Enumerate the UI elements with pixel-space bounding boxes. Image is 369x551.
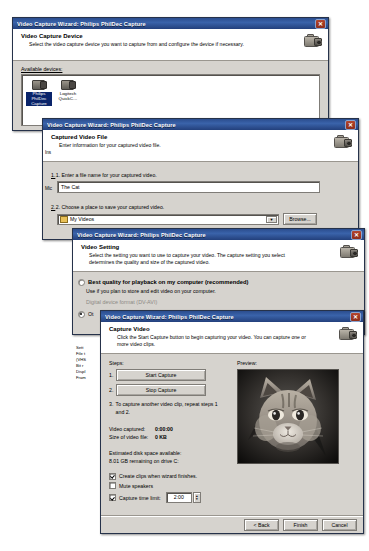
step1-number: 1. bbox=[51, 172, 55, 178]
dialog1-header: Video Capture Device Select the video ca… bbox=[13, 29, 328, 61]
save-location-value: My Videos bbox=[70, 216, 94, 222]
browse-button[interactable]: Browse... bbox=[283, 213, 317, 225]
close-icon[interactable]: ✕ bbox=[315, 19, 326, 29]
back-button[interactable]: < Back bbox=[244, 519, 279, 531]
dialog4-footer: < Back Finish Cancel bbox=[101, 515, 363, 533]
dialog-captured-video-file[interactable]: Video Capture Wizard: Philips PhilDec Ca… bbox=[42, 118, 359, 240]
dialog4-heading: Capture Video bbox=[109, 326, 312, 332]
radio-icon[interactable] bbox=[78, 311, 85, 318]
device-item-logitech[interactable]: Logitech QuickC… bbox=[55, 78, 81, 122]
camera-icon bbox=[304, 33, 322, 47]
device-label-line2: QuickC… bbox=[59, 96, 78, 101]
camera-icon bbox=[339, 326, 357, 340]
dialog2-header: Captured Video File Enter information fo… bbox=[43, 130, 358, 162]
step3-number: 3. bbox=[109, 401, 116, 407]
device-label-line1: Philips PhilDec bbox=[31, 91, 46, 101]
folder-icon bbox=[60, 216, 68, 223]
dialog2-subheading: Enter information for your captured vide… bbox=[51, 142, 161, 149]
dialog3-title: Video Capture Wizard: Philips PhilDec Ca… bbox=[77, 232, 351, 238]
checkbox-create-clips[interactable]: Create clips when wizard finishes. bbox=[109, 473, 227, 480]
camcorder-icon bbox=[32, 78, 47, 91]
finish-button[interactable]: Finish bbox=[283, 519, 318, 531]
camera-icon bbox=[340, 244, 358, 258]
radio-icon[interactable] bbox=[78, 279, 85, 286]
preview-label: Preview: bbox=[237, 360, 341, 366]
dialog3-heading: Video Setting bbox=[81, 244, 304, 250]
webcam-icon bbox=[61, 78, 76, 91]
step2-text: 2. Choose a place to save your captured … bbox=[56, 204, 164, 210]
checkbox-create-clips-label: Create clips when wizard finishes. bbox=[119, 473, 197, 479]
stop-capture-button[interactable]: Stop Capture bbox=[116, 384, 206, 396]
video-captured-label: Video captured: bbox=[109, 426, 155, 432]
dialog1-heading: Video Capture Device bbox=[21, 33, 244, 39]
dialog2-sliver-1: Ins bbox=[45, 150, 51, 155]
disk-space-label: Estimated disk space available: bbox=[109, 450, 227, 456]
video-preview bbox=[237, 369, 339, 464]
step2-label: 2. 2. Choose a place to save your captur… bbox=[51, 204, 350, 210]
time-limit-input[interactable]: 2:00 bbox=[166, 492, 192, 503]
dv-format-label: Digital device format (DV-AVI) bbox=[86, 299, 356, 305]
checkbox-mute-label: Mute speakers bbox=[119, 483, 153, 489]
video-captured-value: 0:00:00 bbox=[155, 426, 173, 432]
video-size-row: Size of video file: 0 KB bbox=[109, 434, 227, 440]
steps-label: Steps: bbox=[109, 360, 227, 366]
checkbox-icon[interactable] bbox=[109, 494, 116, 501]
screen: Video Capture Wizard: Philips PhilDec Ca… bbox=[0, 0, 369, 551]
step3-row: 3. To capture another video clip, repeat… bbox=[109, 401, 227, 417]
device-item-philips[interactable]: Philips PhilDec Capture bbox=[26, 78, 52, 122]
checkbox-icon[interactable] bbox=[109, 482, 116, 489]
radio-other-settings-label: Ot bbox=[88, 311, 93, 317]
dialog-video-capture-device[interactable]: Video Capture Wizard: Philips PhilDec Ca… bbox=[12, 17, 329, 131]
time-limit-stepper[interactable]: ▲ ▼ bbox=[193, 492, 201, 503]
step2-number: 2. bbox=[51, 204, 55, 210]
dialog2-heading: Captured Video File bbox=[51, 134, 161, 140]
device-label-line2: Capture bbox=[31, 101, 47, 106]
close-icon[interactable]: ✕ bbox=[345, 120, 356, 130]
camera-icon bbox=[334, 134, 352, 148]
dialog1-title: Video Capture Wizard: Philips PhilDec Ca… bbox=[17, 21, 315, 27]
dialog4-body: Steps: 1. Start Capture 2. Stop Capture … bbox=[101, 354, 363, 503]
video-size-value: 0 KB bbox=[155, 434, 167, 440]
side-label-5: Fram bbox=[76, 375, 86, 381]
dialog4-title-bar[interactable]: Video Capture Wizard: Philips PhilDec Ca… bbox=[101, 311, 363, 322]
dialog2-body: 1. 1. Enter a file name for your capture… bbox=[43, 162, 358, 230]
checkbox-time-limit-label: Capture time limit: bbox=[119, 495, 161, 501]
chevron-down-icon[interactable]: ▼ bbox=[266, 216, 277, 223]
step2-row: 2. Stop Capture bbox=[109, 384, 227, 396]
dialog3-title-bar[interactable]: Video Capture Wizard: Philips PhilDec Ca… bbox=[73, 229, 364, 240]
file-name-input[interactable]: The Cat bbox=[57, 181, 320, 193]
radio-best-quality[interactable]: Best quality for playback on my computer… bbox=[78, 278, 356, 286]
step1-label: 1. 1. Enter a file name for your capture… bbox=[51, 172, 350, 178]
close-icon[interactable]: ✕ bbox=[350, 312, 361, 322]
dialog4-subheading: Click the Start Capture button to begin … bbox=[109, 334, 312, 349]
radio-best-quality-label: Best quality for playback on my computer… bbox=[88, 279, 248, 285]
dialog1-title-bar[interactable]: Video Capture Wizard: Philips PhilDec Ca… bbox=[13, 18, 328, 29]
stepper-down-icon[interactable]: ▼ bbox=[195, 498, 198, 501]
dialog3-side-labels: Sett File t (VHS Bit r Displ Fram bbox=[76, 345, 86, 381]
capture-controls-column: Steps: 1. Start Capture 2. Stop Capture … bbox=[109, 360, 227, 503]
dialog2-title-bar[interactable]: Video Capture Wizard: Philips PhilDec Ca… bbox=[43, 119, 358, 130]
step1-number: 1. bbox=[109, 372, 116, 378]
checkbox-mute-speakers[interactable]: Mute speakers bbox=[109, 482, 227, 489]
cat-preview-image bbox=[238, 370, 338, 463]
checkbox-capture-time-limit[interactable]: Capture time limit: 2:00 ▲ ▼ bbox=[109, 492, 227, 503]
step1-row: 1. Start Capture bbox=[109, 369, 227, 381]
save-location-select[interactable]: My Videos ▼ bbox=[57, 214, 279, 225]
dialog4-title: Video Capture Wizard: Philips PhilDec Ca… bbox=[105, 314, 350, 320]
step3-text: To capture another video clip, repeat st… bbox=[116, 401, 227, 417]
dialog1-subheading: Select the video capture device you want… bbox=[21, 41, 244, 48]
video-captured-row: Video captured: 0:00:00 bbox=[109, 426, 227, 432]
dialog3-header: Video Setting Select the setting you wan… bbox=[73, 240, 364, 272]
checkbox-icon[interactable] bbox=[109, 473, 116, 480]
dialog2-sliver-2: Mic bbox=[45, 186, 52, 191]
step2-number: 2. bbox=[109, 387, 116, 393]
step1-text: 1. Enter a file name for your captured v… bbox=[56, 172, 157, 178]
preview-column: Preview: bbox=[237, 360, 341, 503]
available-devices-label: Available devices: bbox=[21, 66, 320, 72]
cancel-button[interactable]: Cancel bbox=[322, 519, 357, 531]
dialog-capture-video[interactable]: Video Capture Wizard: Philips PhilDec Ca… bbox=[100, 310, 364, 534]
close-icon[interactable]: ✕ bbox=[351, 230, 362, 240]
video-size-label: Size of video file: bbox=[109, 434, 155, 440]
dialog2-title: Video Capture Wizard: Philips PhilDec Ca… bbox=[47, 122, 345, 128]
start-capture-button[interactable]: Start Capture bbox=[116, 369, 206, 381]
